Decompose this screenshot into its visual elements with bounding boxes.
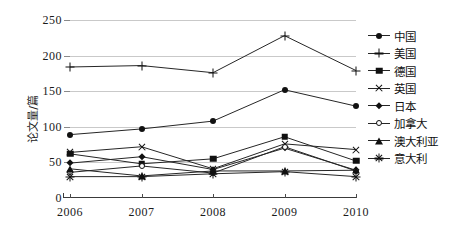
data-point-open-circle-icon — [139, 163, 145, 169]
x-tick-label: 2006 — [57, 205, 83, 220]
data-point-plus-icon — [280, 31, 289, 40]
y-axis-title: 论文量/篇 — [24, 95, 40, 143]
data-point-filled-square-icon — [353, 158, 360, 165]
data-point-filled-square-icon — [376, 68, 383, 75]
legend-label: 加拿大 — [394, 115, 427, 131]
x-tick-label: 2010 — [343, 205, 369, 220]
plot-area: 050100150200250 20062007200820092010 — [70, 20, 356, 198]
legend-item[interactable]: 意大利 — [368, 150, 454, 168]
legend-swatch — [368, 153, 390, 164]
y-tick-label: 50 — [49, 155, 62, 170]
data-point-filled-circle-icon — [210, 118, 216, 124]
legend-swatch — [368, 30, 390, 41]
data-point-filled-diamond-icon — [375, 102, 383, 110]
legend-item[interactable]: 日本 — [368, 97, 454, 115]
legend-item[interactable]: 澳大利亚 — [368, 132, 454, 150]
data-point-plus-icon — [137, 61, 146, 70]
data-point-star-icon — [375, 154, 384, 163]
data-point-cross-icon — [137, 142, 146, 151]
legend-label: 德国 — [394, 63, 416, 79]
data-point-star-icon — [209, 169, 218, 178]
legend-item[interactable]: 中国 — [368, 27, 454, 45]
x-tick-label: 2008 — [200, 205, 226, 220]
data-point-plus-icon — [375, 49, 384, 58]
legend-label: 日本 — [394, 98, 416, 114]
data-point-filled-circle-icon — [376, 33, 382, 39]
legend-swatch — [368, 135, 390, 146]
series-line — [70, 36, 356, 73]
y-tick-label: 150 — [43, 84, 63, 99]
legend-label: 英国 — [394, 80, 416, 96]
data-point-cross-icon — [66, 148, 75, 157]
x-tick-label: 2009 — [272, 205, 298, 220]
data-point-open-circle-icon — [376, 120, 382, 126]
legend-swatch — [368, 118, 390, 129]
legend-label: 意大利 — [394, 150, 427, 166]
legend-label: 澳大利亚 — [394, 133, 438, 149]
x-tick-label: 2007 — [129, 205, 155, 220]
data-point-open-circle-icon — [282, 144, 288, 150]
legend-item[interactable]: 美国 — [368, 45, 454, 63]
x-axis-left-cap — [63, 193, 64, 198]
data-point-plus-icon — [66, 62, 75, 71]
legend-label: 美国 — [394, 45, 416, 61]
legend-swatch — [368, 83, 390, 94]
y-tick-label: 100 — [43, 119, 63, 134]
data-point-filled-circle-icon — [139, 126, 145, 132]
y-tick-label: 200 — [43, 48, 63, 63]
legend-item[interactable]: 德国 — [368, 62, 454, 80]
data-point-filled-triangle-icon — [375, 137, 383, 144]
data-point-star-icon — [352, 172, 361, 181]
legend-label: 中国 — [394, 28, 416, 44]
data-point-plus-icon — [209, 68, 218, 77]
y-tick-label: 250 — [43, 13, 63, 28]
legend-item[interactable]: 英国 — [368, 80, 454, 98]
data-point-star-icon — [280, 167, 289, 176]
legend-item[interactable]: 加拿大 — [368, 115, 454, 133]
data-point-plus-icon — [352, 66, 361, 75]
x-tick-mark — [356, 194, 357, 198]
legend: 中国美国德国英国日本加拿大澳大利亚意大利 — [368, 27, 454, 167]
data-point-filled-circle-icon — [353, 103, 359, 109]
y-tick-label: 0 — [56, 191, 63, 206]
series-line — [70, 90, 356, 135]
data-point-cross-icon — [375, 84, 384, 93]
data-point-filled-circle-icon — [282, 87, 288, 93]
data-point-filled-square-icon — [210, 156, 217, 163]
legend-swatch — [368, 100, 390, 111]
data-point-star-icon — [137, 172, 146, 181]
data-point-star-icon — [66, 172, 75, 181]
data-point-cross-icon — [352, 145, 361, 154]
legend-swatch — [368, 48, 390, 59]
data-point-filled-circle-icon — [67, 132, 73, 138]
line-chart: 论文量/篇 050100150200250 200620072008200920… — [0, 0, 457, 237]
legend-swatch — [368, 65, 390, 76]
